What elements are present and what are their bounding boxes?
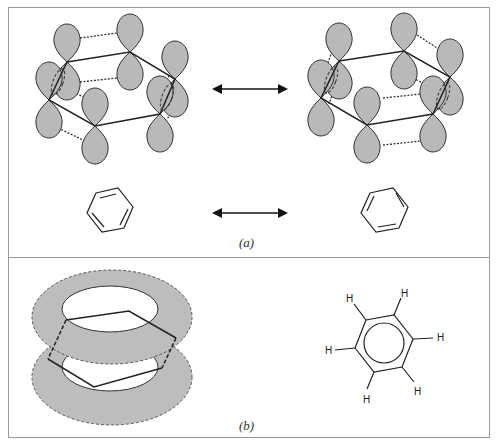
hydrogen-label: H — [401, 288, 408, 299]
hydrogen-label: H — [325, 345, 332, 356]
kekule-structure-left — [87, 188, 133, 232]
kekule-structure-right — [361, 188, 408, 232]
orbital-structure-left — [36, 14, 188, 164]
benzene-aromatic-structure: H H H H H H — [325, 288, 444, 405]
hydrogen-label: H — [346, 293, 353, 304]
resonance-arrow-bottom — [212, 208, 288, 218]
hydrogen-label: H — [363, 394, 370, 405]
panel-b-caption: (b) — [239, 418, 254, 434]
benzene-figure: H H H H H H — [0, 0, 498, 446]
hydrogen-label: H — [437, 332, 444, 343]
pi-electron-cloud — [32, 270, 192, 425]
hydrogen-label: H — [414, 386, 421, 397]
resonance-arrow-top — [212, 84, 288, 94]
panel-a-caption: (a) — [239, 235, 254, 251]
orbital-structure-right — [308, 13, 463, 163]
